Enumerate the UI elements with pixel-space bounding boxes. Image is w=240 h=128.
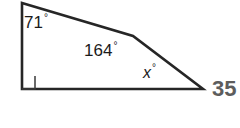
angle-164-value: 164 bbox=[84, 41, 112, 60]
degree-symbol-icon: ° bbox=[113, 40, 117, 51]
degree-symbol-icon: ° bbox=[152, 62, 156, 73]
angle-71-value: 71 bbox=[24, 13, 43, 32]
angle-label-71: 71° bbox=[24, 14, 47, 31]
angle-label-x: x° bbox=[143, 64, 155, 81]
side-length-text: 35 bbox=[212, 78, 236, 100]
geometry-figure: 71° 164° x° 35 bbox=[0, 0, 240, 128]
angle-label-164: 164° bbox=[84, 42, 116, 59]
angle-x-value: x bbox=[143, 64, 151, 81]
degree-symbol-icon: ° bbox=[44, 12, 48, 23]
